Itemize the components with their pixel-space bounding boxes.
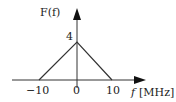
x-axis-arrow-icon xyxy=(134,76,146,84)
peak-value-label: 4 xyxy=(66,30,73,43)
tick-label-neg10: −10 xyxy=(26,84,49,97)
triangle-curve xyxy=(39,42,112,80)
x-axis-variable: f xyxy=(130,86,137,99)
tick-label-0: 0 xyxy=(73,84,80,97)
x-axis-unit: [MHz] xyxy=(139,86,174,99)
y-axis-arrow-icon xyxy=(73,8,81,20)
y-axis-label: F(f) xyxy=(40,6,60,19)
triangle-spectrum-diagram: F(f) 4 −10 0 10 f [MHz] xyxy=(0,0,176,102)
tick-label-10: 10 xyxy=(106,84,120,97)
